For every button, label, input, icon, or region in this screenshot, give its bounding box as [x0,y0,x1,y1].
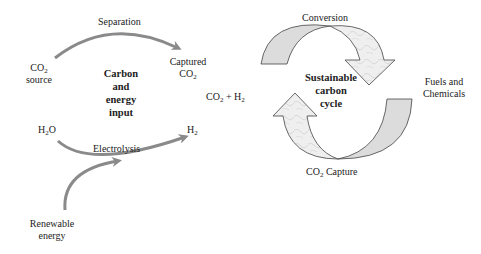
title-line: input [109,107,133,118]
renewable-energy-label: Renewable energy [24,218,80,242]
title-line: Sustainable [305,72,357,83]
conversion-arrow-left-half [261,25,330,64]
title-line: cycle [320,98,342,109]
subscript: 2 [241,96,245,104]
title-line: and [113,81,130,92]
carbon-energy-input-title: Carbon and energy input [96,67,146,119]
chemicals-text: Chemicals [423,88,465,99]
co2-text: CO [179,68,193,79]
title-line: Carbon [104,68,138,79]
h2o-label: H2O [38,124,56,136]
renewable-energy-arrow [65,161,118,210]
plus-h-text: + H [223,91,241,102]
o-text: O [49,124,56,135]
title-line: carbon [315,85,347,96]
electrolysis-label: Electrolysis [93,143,140,155]
conversion-label: Conversion [302,12,348,24]
co2-capture-label: CO2 Capture [306,166,358,178]
separation-label: Separation [98,16,141,28]
separation-arrow [55,34,178,58]
title-line: energy [106,94,136,105]
fuels-text: Fuels and [425,76,464,87]
captured-co2-label: Captured CO2 [165,56,211,80]
energy-text: energy [38,230,65,241]
subscript: 2 [193,73,197,81]
h2-label: H2 [187,124,198,136]
diagram-canvas [0,0,481,254]
co2-plus-h2-label: CO2 + H2 [206,91,245,103]
captured-text: Captured [170,56,207,67]
co2-text: CO [306,166,320,177]
subscript: 2 [194,129,198,137]
co2-text: CO [206,91,220,102]
co2-text: CO [30,62,44,73]
source-text: source [26,74,52,85]
fuels-chemicals-label: Fuels and Chemicals [414,76,474,100]
co2-source-label: CO2 source [22,62,56,86]
renewable-text: Renewable [30,218,74,229]
sustainable-carbon-cycle-title: Sustainable carbon cycle [300,71,362,110]
capture-text: Capture [323,166,357,177]
